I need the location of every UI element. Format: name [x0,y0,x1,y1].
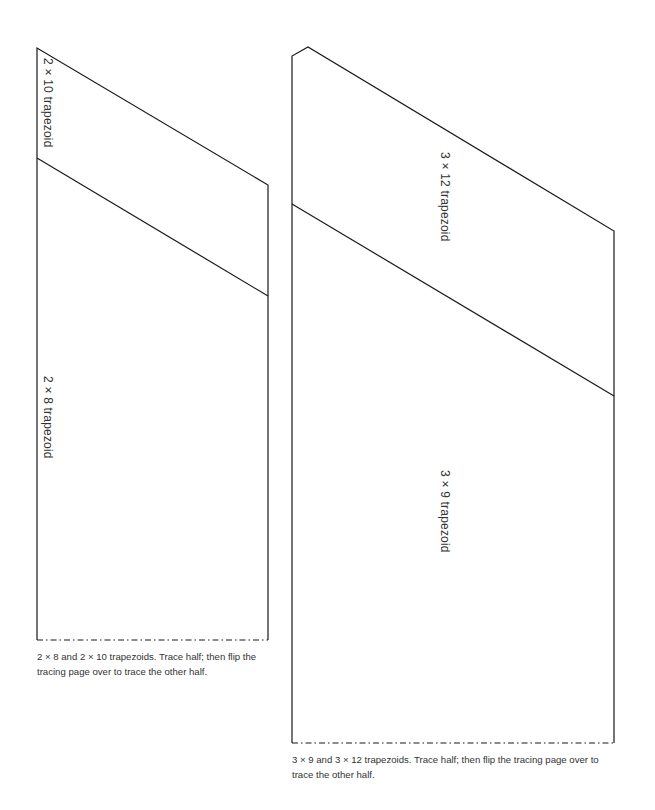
label-3x9-trapezoid: 3 × 9 trapezoid [438,470,452,553]
left-outline [37,48,268,640]
label-3x12-trapezoid: 3 × 12 trapezoid [438,152,452,242]
pattern-drawing [0,0,655,810]
left-pattern-outline [37,48,268,640]
right-divider-line [292,204,614,396]
left-caption: 2 × 8 and 2 × 10 trapezoids. Trace half;… [37,649,277,679]
left-divider-line [37,158,268,296]
right-outline [292,47,614,743]
right-pattern-outline [292,47,614,743]
label-2x10-trapezoid: 2 × 10 trapezoid [41,58,55,148]
label-2x8-trapezoid: 2 × 8 trapezoid [41,376,55,459]
right-caption: 3 × 9 and 3 × 12 trapezoids. Trace half;… [292,752,622,782]
